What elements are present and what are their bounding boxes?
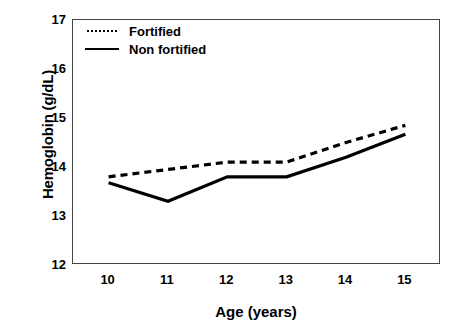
x-tick-label: 11 bbox=[147, 273, 187, 286]
legend-dotted-line-icon bbox=[85, 25, 119, 37]
x-tick-label: 10 bbox=[88, 273, 128, 286]
y-tick-label: 12 bbox=[40, 258, 66, 271]
series-line-non-fortified bbox=[109, 134, 406, 201]
y-tick-label: 17 bbox=[40, 13, 66, 26]
legend-solid-line-icon bbox=[85, 43, 119, 55]
y-tick-label: 16 bbox=[40, 62, 66, 75]
x-tick-label: 14 bbox=[325, 273, 365, 286]
x-axis-title: Age (years) bbox=[72, 303, 440, 320]
chart-figure: Hemoglobin (g/dL) Age (years) 1213141516… bbox=[0, 0, 457, 334]
y-tick-label: 15 bbox=[40, 111, 66, 124]
legend-item: Non fortified bbox=[85, 40, 206, 58]
x-tick-label: 15 bbox=[384, 273, 424, 286]
y-tick-label: 13 bbox=[40, 209, 66, 222]
x-tick-label: 12 bbox=[206, 273, 246, 286]
y-tick-label: 14 bbox=[40, 160, 66, 173]
legend: FortifiedNon fortified bbox=[85, 22, 206, 58]
legend-item: Fortified bbox=[85, 22, 206, 40]
x-tick-label: 13 bbox=[266, 273, 306, 286]
legend-item-label: Non fortified bbox=[129, 42, 206, 57]
legend-item-label: Fortified bbox=[129, 24, 181, 39]
